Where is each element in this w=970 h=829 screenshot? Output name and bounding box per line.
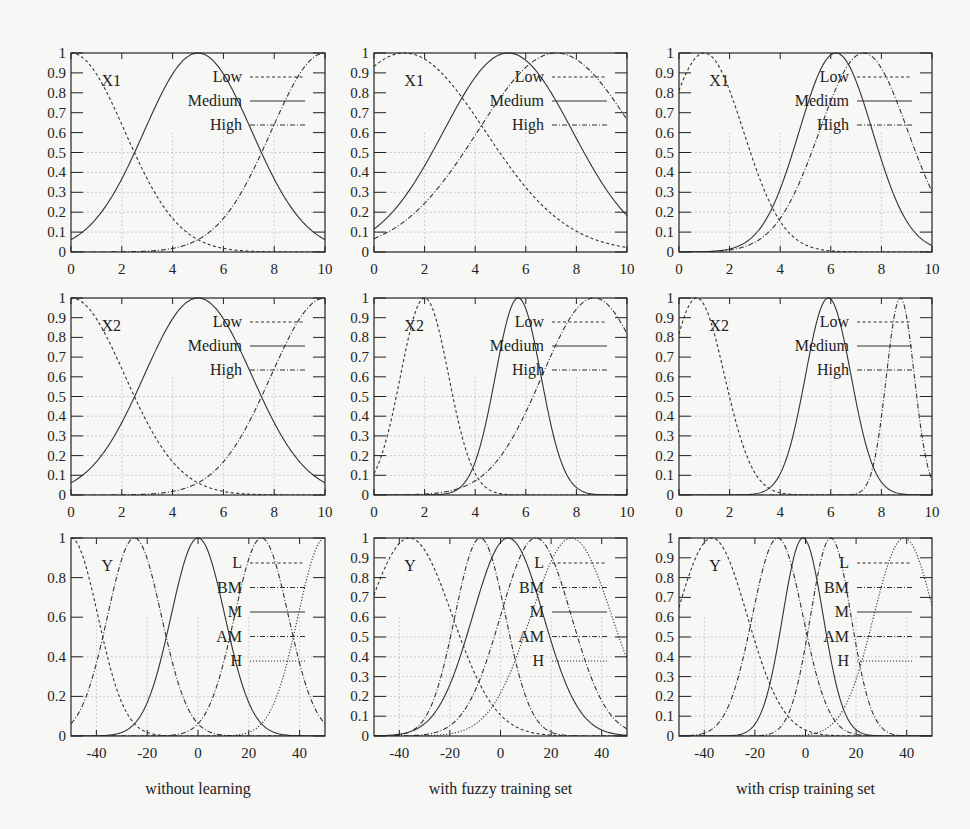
legend-label-low: Low xyxy=(515,313,545,330)
x-tick-label: 10 xyxy=(620,261,635,277)
legend-label-l: L xyxy=(534,554,544,571)
x-tick-label: 10 xyxy=(318,504,333,520)
x-tick-label: 6 xyxy=(220,261,228,277)
plot-x2-crisp: 024681000.10.20.30.40.50.60.70.80.91X2Lo… xyxy=(655,290,939,520)
grid-lines xyxy=(71,617,325,736)
legend: LowMediumHigh xyxy=(490,68,607,134)
x-tick-label: 0 xyxy=(370,504,378,520)
variable-label: X2 xyxy=(101,317,121,334)
y-tick-label: 0.6 xyxy=(350,125,369,141)
column-caption: with fuzzy training set xyxy=(429,780,573,798)
x-tick-label: 0 xyxy=(497,745,505,761)
plot-x1-fuzzy: 024681000.10.20.30.40.50.60.70.80.91X1Lo… xyxy=(350,45,634,277)
legend: LowMediumHigh xyxy=(795,68,912,134)
legend: LBMMAMH xyxy=(216,554,305,669)
legend-label-low: Low xyxy=(820,313,850,330)
x-tick-label: 6 xyxy=(827,504,835,520)
x-tick-label: 2 xyxy=(118,504,126,520)
x-tick-label: 20 xyxy=(241,745,256,761)
y-tick-label: 0.6 xyxy=(655,125,674,141)
x-tick-label: 6 xyxy=(827,261,835,277)
y-tick-label: 0.7 xyxy=(47,105,66,121)
y-tick-label: 0.2 xyxy=(47,688,66,704)
y-tick-label: 0.9 xyxy=(655,310,674,326)
y-tick-label: 0 xyxy=(59,487,67,503)
x-tick-label: -40 xyxy=(694,745,714,761)
legend-label-l: L xyxy=(839,554,849,571)
y-tick-label: 0.6 xyxy=(655,369,674,385)
plot-x2-fuzzy: 024681000.10.20.30.40.50.60.70.80.91X2Lo… xyxy=(350,290,634,520)
y-tick-label: 1 xyxy=(59,530,67,546)
x-tick-label: -20 xyxy=(745,745,765,761)
x-tick-label: 8 xyxy=(270,261,278,277)
legend-label-medium: Medium xyxy=(188,92,243,109)
y-tick-label: 0.1 xyxy=(47,467,66,483)
legend-label-medium: Medium xyxy=(795,92,850,109)
y-tick-label: 0.7 xyxy=(350,105,369,121)
y-tick-label: 0.8 xyxy=(350,329,369,345)
y-tick-label: 1 xyxy=(59,290,67,306)
y-tick-label: 0.1 xyxy=(350,708,369,724)
y-tick-label: 0.7 xyxy=(350,589,369,605)
variable-label: X2 xyxy=(709,317,729,334)
x-tick-label: 2 xyxy=(421,504,429,520)
legend-label-high: High xyxy=(210,116,242,134)
legend: LowMediumHigh xyxy=(188,68,305,134)
y-tick-label: 0.8 xyxy=(655,85,674,101)
grid-lines xyxy=(374,133,627,252)
plot-x1-without: 024681000.10.20.30.40.50.60.70.80.91X1Lo… xyxy=(47,45,332,277)
x-tick-label: 6 xyxy=(522,261,530,277)
y-tick-label: 0.9 xyxy=(47,310,66,326)
y-tick-label: 1 xyxy=(362,45,370,61)
y-tick-label: 0.3 xyxy=(350,428,369,444)
legend-label-high: High xyxy=(512,361,544,379)
y-tick-label: 0.9 xyxy=(47,65,66,81)
variable-label: X2 xyxy=(404,317,424,334)
legend: LBMMAMH xyxy=(823,554,912,669)
x-tick-label: 4 xyxy=(776,261,784,277)
x-tick-label: 0 xyxy=(67,504,75,520)
y-tick-label: 0.2 xyxy=(350,448,369,464)
x-tick-label: 10 xyxy=(620,504,635,520)
y-tick-label: 0.2 xyxy=(47,448,66,464)
y-tick-label: 1 xyxy=(59,45,67,61)
y-tick-label: 0.9 xyxy=(350,550,369,566)
y-tick-label: 0.5 xyxy=(350,629,369,645)
legend-label-medium: Medium xyxy=(490,337,545,354)
y-tick-label: 0.7 xyxy=(47,349,66,365)
y-tick-label: 0 xyxy=(362,487,370,503)
legend-label-am: AM xyxy=(823,628,849,645)
x-tick-label: 4 xyxy=(169,504,177,520)
plot-x1-crisp: 024681000.10.20.30.40.50.60.70.80.91X1Lo… xyxy=(655,45,939,277)
y-tick-label: 0.8 xyxy=(350,85,369,101)
legend-label-am: AM xyxy=(518,628,544,645)
x-tick-label: 0 xyxy=(370,261,378,277)
y-tick-label: 0.9 xyxy=(350,310,369,326)
x-tick-label: -20 xyxy=(440,745,460,761)
y-tick-label: 0.5 xyxy=(350,389,369,405)
y-tick-label: 0.2 xyxy=(655,688,674,704)
y-tick-label: 0.4 xyxy=(655,649,674,665)
legend: LowMediumHigh xyxy=(490,313,607,379)
legend-label-l: L xyxy=(232,554,242,571)
y-tick-label: 0.5 xyxy=(47,389,66,405)
legend-label-h: H xyxy=(837,652,849,669)
x-tick-label: 4 xyxy=(471,261,479,277)
variable-label: Y xyxy=(101,557,113,574)
y-tick-label: 0.7 xyxy=(655,349,674,365)
x-tick-label: 10 xyxy=(925,504,940,520)
y-tick-label: 0.6 xyxy=(350,369,369,385)
y-tick-label: 0.3 xyxy=(655,428,674,444)
y-tick-label: 0.8 xyxy=(655,570,674,586)
y-tick-label: 0.2 xyxy=(655,448,674,464)
y-tick-label: 0.6 xyxy=(350,609,369,625)
x-tick-label: -40 xyxy=(389,745,409,761)
legend-label-low: Low xyxy=(213,68,243,85)
y-tick-label: 0.5 xyxy=(47,145,66,161)
y-tick-label: 0.8 xyxy=(47,570,66,586)
y-tick-label: 0.1 xyxy=(655,224,674,240)
x-tick-label: 6 xyxy=(220,504,228,520)
y-tick-label: 0.4 xyxy=(47,408,66,424)
plot-y-crisp: -40-200204000.10.20.30.40.50.60.70.80.91… xyxy=(655,530,932,798)
y-tick-label: 0.8 xyxy=(47,85,66,101)
